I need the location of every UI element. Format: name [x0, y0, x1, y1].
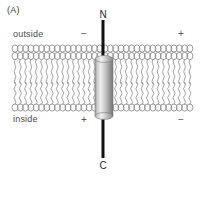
lipid-tail-icon: [184, 82, 186, 105]
lipid-tail-icon: [72, 60, 74, 85]
lipid-tail-icon: [189, 60, 191, 85]
lipid-tail-icon: [178, 82, 180, 105]
lipid-tail-icon: [51, 60, 53, 85]
lipid-tail-icon: [157, 82, 159, 105]
lipid-tail-icon: [51, 82, 53, 105]
lipid-head-icon-row-upper-inner: [12, 52, 193, 59]
lipid-tail-icon: [19, 60, 21, 85]
lipid-tail-icon: [67, 60, 69, 85]
lipid-tail-icon: [146, 82, 148, 105]
lipid-tail-icon: [173, 60, 175, 85]
lipid-tail-icon: [93, 82, 95, 105]
lipid-tail-icon: [110, 60, 112, 85]
lipid-head-icon-row-upper-outer: [12, 45, 193, 52]
lipid-tail-icon: [56, 82, 58, 105]
lipid-tail-icon: [14, 60, 16, 85]
lipid-tail-icon: [19, 82, 21, 105]
lipid-tail-icon: [152, 60, 154, 85]
lipid-tail-icon: [14, 82, 16, 105]
lipid-tail-icon: [78, 60, 80, 85]
lipid-tail-icon: [25, 60, 27, 85]
lipid-tail-icon: [30, 60, 32, 85]
lipid-tail-icon: [173, 82, 175, 105]
membrane-protein-figure: (A) outside inside N C − + + −: [0, 0, 208, 202]
lipid-tail-icon: [99, 60, 101, 85]
lipid-tail-icon: [115, 60, 117, 85]
lipid-tail-icon: [136, 60, 138, 85]
lipid-tail-icon: [184, 60, 186, 85]
lipid-tail-icon: [104, 82, 106, 105]
lipid-tail-icon: [147, 60, 149, 85]
lipid-tail-icon: [168, 82, 170, 105]
lipid-tail-icon: [125, 82, 127, 105]
lipid-bilayer: [0, 0, 208, 202]
lipid-tail-icon: [83, 82, 85, 105]
lipid-tail-icon: [136, 82, 138, 105]
lipid-tail-icon: [35, 82, 37, 105]
lipid-tail-icon: [35, 60, 37, 85]
lipid-tail-icon: [62, 82, 64, 105]
lipid-tail-icon: [83, 60, 85, 85]
lipid-tail-icon: [178, 60, 180, 85]
lipid-tail-icon: [125, 60, 127, 85]
lipid-tail-icon-row-lower: [14, 82, 191, 105]
lipid-tail-icon: [168, 60, 170, 85]
lipid-tail-icon-row-upper: [14, 60, 191, 85]
lipid-tail-icon: [30, 82, 32, 105]
lipid-tail-icon: [115, 82, 117, 105]
lipid-head-icon-row-lower: [12, 104, 193, 111]
lipid-tail-icon: [99, 82, 101, 105]
lipid-tail-icon: [72, 82, 74, 105]
lipid-tail-icon: [162, 82, 164, 105]
lipid-tail-icon: [25, 82, 27, 105]
lipid-tail-icon: [67, 82, 69, 105]
lipid-tail-icon: [141, 60, 143, 85]
lipid-tail-icon: [120, 60, 122, 85]
lipid-tail-icon: [131, 82, 133, 105]
lipid-tail-icon: [41, 60, 43, 85]
lipid-tail-icon: [88, 82, 90, 105]
lipid-tail-icon: [120, 82, 122, 105]
lipid-tail-icon: [57, 60, 59, 85]
lipid-tail-icon: [131, 60, 133, 85]
lipid-tail-icon: [189, 82, 191, 105]
lipid-tail-icon: [152, 82, 154, 105]
lipid-tail-icon: [163, 60, 165, 85]
lipid-tail-icon: [40, 82, 42, 105]
lipid-tail-icon: [46, 60, 48, 85]
lipid-tail-icon: [46, 82, 48, 105]
lipid-tail-icon: [62, 60, 64, 85]
lipid-tail-icon: [109, 82, 111, 105]
lipid-tail-icon: [78, 82, 80, 105]
lipid-tail-icon: [94, 60, 96, 85]
lipid-tail-icon: [104, 60, 106, 85]
lipid-tail-icon: [157, 60, 159, 85]
lipid-tail-icon: [88, 60, 90, 85]
lipid-tail-icon: [141, 82, 143, 105]
